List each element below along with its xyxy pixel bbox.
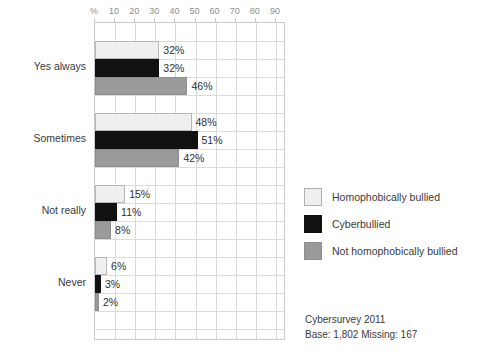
bar <box>95 203 117 221</box>
gridline-vertical <box>196 23 197 339</box>
bar-value-label: 48% <box>192 113 217 131</box>
bar <box>95 149 179 167</box>
x-tick-label: 10 <box>103 6 125 16</box>
category-label: Yes always <box>6 60 94 72</box>
bar-value-label: 11% <box>117 203 141 221</box>
bar <box>95 113 192 131</box>
bar <box>95 77 187 95</box>
legend-item: Cyberbullied <box>304 213 482 240</box>
legend: Homophobically bulliedCyberbulliedNot ho… <box>304 186 482 267</box>
caption-source: Cybersurvey 2011 <box>305 312 417 327</box>
gridline-vertical <box>216 23 217 339</box>
gridline-vertical <box>256 23 257 339</box>
bar <box>95 221 111 239</box>
bar-value-label: 15% <box>125 185 150 203</box>
gridline-horizontal <box>95 275 284 276</box>
legend-label: Homophobically bullied <box>332 186 440 208</box>
chart-root: %102030405060708090 32%32%46%48%51%42%15… <box>0 0 485 363</box>
bar-value-label: 51% <box>198 131 223 149</box>
gridline-horizontal <box>95 293 284 294</box>
x-tick-label: 20 <box>123 6 145 16</box>
x-tick-label: 60 <box>204 6 226 16</box>
x-tick-label: % <box>83 6 105 16</box>
gridline-vertical <box>276 23 277 339</box>
category-label: Sometimes <box>6 132 94 144</box>
x-tick-label: 90 <box>264 6 286 16</box>
legend-item: Not homophobically bullied <box>304 240 482 267</box>
x-tick-label: 40 <box>163 6 185 16</box>
x-tick-label: 70 <box>224 6 246 16</box>
legend-swatch <box>304 215 322 233</box>
legend-item: Homophobically bullied <box>304 186 482 213</box>
bar-value-label: 2% <box>99 293 118 311</box>
bar-value-label: 32% <box>159 59 184 77</box>
x-tick-label: 50 <box>184 6 206 16</box>
x-tick-label: 80 <box>244 6 266 16</box>
bar <box>95 257 107 275</box>
bar-value-label: 8% <box>111 221 130 239</box>
gridline-horizontal <box>95 167 284 168</box>
bar-value-label: 46% <box>187 77 212 95</box>
bar-value-label: 42% <box>179 149 204 167</box>
caption-base: Base: 1,802 Missing: 167 <box>305 327 417 342</box>
bar <box>95 41 159 59</box>
plot-area: 32%32%46%48%51%42%15%11%8%6%3%2% <box>94 22 285 340</box>
bar <box>95 131 198 149</box>
legend-label: Cyberbullied <box>332 213 390 235</box>
gridline-vertical <box>236 23 237 339</box>
gridline-horizontal <box>95 239 284 240</box>
category-label: Not really <box>6 204 94 216</box>
gridline-horizontal <box>95 329 284 330</box>
legend-swatch <box>304 188 322 206</box>
gridline-horizontal <box>95 311 284 312</box>
legend-swatch <box>304 242 322 260</box>
bar-value-label: 32% <box>159 41 184 59</box>
legend-label: Not homophobically bullied <box>332 240 458 262</box>
category-label: Never <box>6 276 94 288</box>
x-tick-label: 30 <box>143 6 165 16</box>
chart-caption: Cybersurvey 2011 Base: 1,802 Missing: 16… <box>305 312 417 342</box>
gridline-horizontal <box>95 95 284 96</box>
bar <box>95 59 159 77</box>
bar-value-label: 3% <box>101 275 120 293</box>
bar-value-label: 6% <box>107 257 126 275</box>
bar <box>95 185 125 203</box>
